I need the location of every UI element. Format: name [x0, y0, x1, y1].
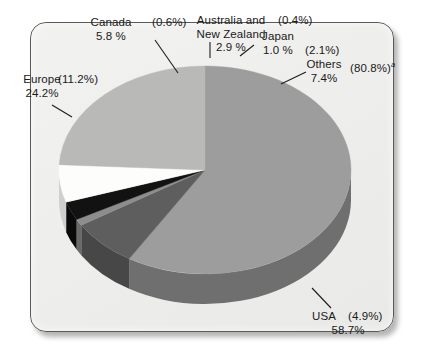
label-japan-name: Japan	[252, 30, 304, 44]
label-usa-value: 58.7%	[318, 324, 378, 338]
label-others-paren-group: (80.8%)a	[350, 58, 395, 75]
pie-slice-side-japan	[77, 220, 82, 256]
label-canada-paren: (0.6%)	[152, 16, 186, 30]
label-canada-name: Canada	[72, 16, 150, 30]
label-others-value: 7.4%	[298, 72, 350, 86]
label-anz-line1: Australia and	[186, 14, 276, 28]
label-others: Others 7.4%	[298, 58, 350, 85]
label-canada: Canada 5.8 %	[72, 16, 150, 43]
label-usa-paren: (4.9%)	[348, 310, 382, 324]
label-japan-value: 1.0 %	[252, 44, 304, 58]
label-anz-paren: (0.4%)	[278, 14, 312, 28]
label-others-paren: (80.8%)	[350, 62, 391, 74]
label-europe-value: 24.2%	[12, 87, 72, 101]
label-japan: Japan 1.0 %	[252, 30, 304, 57]
label-europe-paren: (11.2%)	[58, 73, 98, 87]
leader-line-canada	[155, 40, 178, 73]
label-usa-name: USA	[312, 310, 336, 324]
label-others-name: Others	[298, 58, 350, 72]
leader-line-europe	[52, 105, 72, 117]
leader-line-usa	[312, 288, 331, 308]
pie-slices	[59, 66, 351, 274]
pie-chart-figure: Canada 5.8 % (0.6%) Australia and New Ze…	[0, 0, 422, 354]
label-others-footnote-marker: a	[391, 60, 395, 69]
label-canada-value: 5.8 %	[72, 30, 150, 44]
label-japan-paren: (2.1%)	[305, 44, 339, 58]
